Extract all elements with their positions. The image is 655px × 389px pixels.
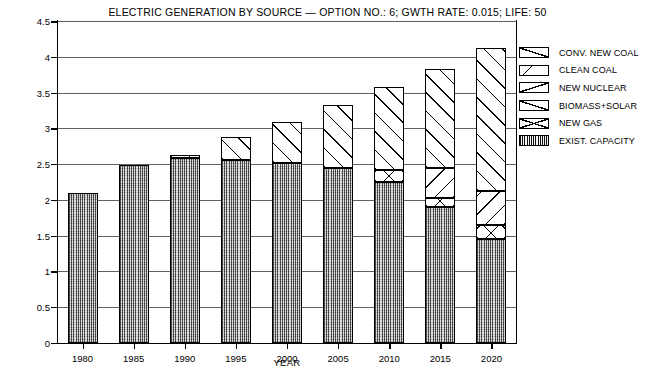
y-axis-tick-label: 0 — [6, 337, 50, 348]
legend-label: EXIST. CAPACITY — [559, 136, 635, 146]
bar-2015[interactable] — [425, 69, 455, 343]
y-axis-tick-label: 2 — [6, 194, 50, 205]
y-axis-line — [57, 20, 58, 344]
legend-swatch-clean — [519, 65, 549, 76]
bar-segment-nuke[interactable] — [476, 191, 506, 225]
legend-label: CONV. NEW COAL — [559, 48, 639, 58]
bar-segment-exist[interactable] — [323, 168, 353, 343]
bar-segment-exist[interactable] — [119, 165, 149, 342]
legend-item-nuke[interactable]: NEW NUCLEAR — [519, 79, 653, 97]
bar-segment-conv[interactable] — [425, 69, 455, 168]
chart-title: ELECTRIC GENERATION BY SOURCE — OPTION N… — [0, 6, 655, 18]
bar-2020[interactable] — [476, 48, 506, 342]
bar-segment-exist[interactable] — [476, 239, 506, 343]
bar-segment-gas[interactable] — [476, 225, 506, 239]
x-axis-tick — [236, 344, 237, 349]
legend-swatch-conv — [519, 47, 549, 58]
x-axis-tick — [389, 344, 390, 349]
legend-item-clean[interactable]: CLEAN COAL — [519, 62, 653, 80]
bar-segment-exist[interactable] — [221, 160, 251, 342]
y-axis-tick — [51, 93, 57, 94]
bar-segment-conv[interactable] — [374, 87, 404, 170]
bar-segment-conv[interactable] — [221, 137, 251, 161]
x-axis-tick — [134, 344, 135, 349]
bar-2010[interactable] — [374, 87, 404, 343]
y-axis-tick-label: 3.5 — [6, 87, 50, 98]
x-axis-tick — [491, 344, 492, 349]
legend-label: CLEAN COAL — [559, 65, 617, 75]
y-axis-tick-label: 4.5 — [6, 16, 50, 27]
bar-1985[interactable] — [119, 165, 149, 342]
y-axis-labels: 00.511.522.533.544.5 — [0, 20, 50, 344]
legend-swatch-nuke — [519, 82, 549, 93]
bar-1990[interactable] — [170, 155, 200, 343]
legend-item-conv[interactable]: CONV. NEW COAL — [519, 44, 653, 62]
x-axis-tick — [338, 344, 339, 349]
y-axis-tick — [51, 200, 57, 201]
plot-area: 198019851990199520002005201020152020 — [57, 20, 517, 344]
y-axis-tick-label: 3 — [6, 123, 50, 134]
chart-figure: ELECTRIC GENERATION BY SOURCE — OPTION N… — [0, 0, 655, 389]
y-axis-tick-label: 0.5 — [6, 301, 50, 312]
x-axis-tick — [440, 344, 441, 349]
bar-segment-exist[interactable] — [272, 163, 302, 343]
x-axis-tick — [185, 344, 186, 349]
bar-1980[interactable] — [68, 193, 98, 343]
y-axis-tick — [51, 343, 57, 344]
legend-label: BIOMASS+SOLAR — [559, 101, 637, 111]
legend-item-exist[interactable]: EXIST. CAPACITY — [519, 132, 653, 150]
legend-item-bio[interactable]: BIOMASS+SOLAR — [519, 97, 653, 115]
bar-segment-conv[interactable] — [476, 48, 506, 191]
legend-swatch-exist — [519, 135, 549, 146]
x-axis-tick — [287, 344, 288, 349]
bar-segment-gas[interactable] — [374, 170, 404, 182]
bar-segment-exist[interactable] — [170, 158, 200, 342]
bar-segment-nuke[interactable] — [425, 168, 455, 198]
y-axis-tick-label: 4 — [6, 52, 50, 63]
legend-label: NEW NUCLEAR — [559, 83, 627, 93]
bar-2005[interactable] — [323, 105, 353, 343]
y-axis-tick — [51, 21, 57, 22]
bar-segment-exist[interactable] — [374, 182, 404, 343]
plot-right-border — [516, 20, 517, 344]
legend-label: NEW GAS — [559, 118, 602, 128]
legend-item-gas[interactable]: NEW GAS — [519, 114, 653, 132]
chart-legend: CONV. NEW COALCLEAN COALNEW NUCLEARBIOMA… — [519, 44, 653, 150]
bar-segment-gas[interactable] — [425, 198, 455, 207]
y-axis-tick — [51, 164, 57, 165]
bar-segment-conv[interactable] — [323, 105, 353, 168]
legend-swatch-bio — [519, 100, 549, 111]
y-axis-tick — [51, 57, 57, 58]
bar-segment-exist[interactable] — [68, 193, 98, 343]
y-axis-tick — [51, 307, 57, 308]
bar-segment-exist[interactable] — [425, 207, 455, 343]
legend-swatch-gas — [519, 118, 549, 129]
y-axis-tick-label: 2.5 — [6, 159, 50, 170]
y-axis-tick-label: 1.5 — [6, 230, 50, 241]
gridline — [57, 57, 517, 58]
gridline — [57, 21, 517, 22]
bar-1995[interactable] — [221, 137, 251, 343]
y-axis-tick — [51, 271, 57, 272]
y-axis-tick — [51, 236, 57, 237]
bar-segment-conv[interactable] — [272, 122, 302, 163]
x-axis-tick — [83, 344, 84, 349]
x-axis-title: YEAR — [57, 357, 517, 368]
y-axis-tick — [51, 128, 57, 129]
y-axis-tick-label: 1 — [6, 266, 50, 277]
bar-segment-conv[interactable] — [170, 155, 200, 159]
bar-2000[interactable] — [272, 122, 302, 343]
